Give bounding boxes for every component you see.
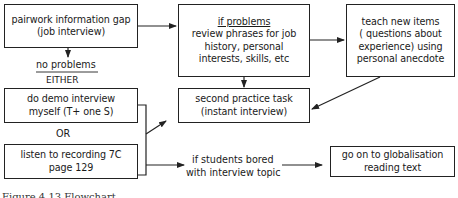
node-text: page 129	[49, 162, 94, 175]
node-text: myself (T+ one S)	[29, 106, 114, 119]
node-text: reading text	[364, 162, 421, 175]
node-text: do demo interview	[27, 93, 115, 106]
node-text: listen to recording 7C	[21, 149, 122, 162]
label-either: EITHER	[46, 74, 79, 86]
label-or: OR	[56, 128, 70, 140]
node-text: history, personal	[205, 41, 284, 54]
node-text: teach new items	[362, 16, 440, 29]
node-globalisation-reading: go on to globalisation reading text	[330, 146, 455, 177]
figure-caption: Figure 4.13 Flowchart	[2, 191, 116, 198]
node-text: ( questions about	[359, 28, 441, 41]
node-heading: if problems	[218, 16, 271, 29]
node-pairwork-information-gap: pairwork information gap (job interview)	[4, 4, 138, 48]
node-text: personal anecdote	[357, 53, 445, 66]
label-no-problems: no problems	[36, 59, 96, 71]
node-text: (job interview)	[37, 26, 105, 39]
node-text: (instant interview)	[201, 106, 287, 119]
label-if-students-bored: if students bored with interview topic	[186, 153, 281, 179]
label-text: if students bored	[186, 153, 281, 166]
node-text: go on to globalisation	[342, 149, 444, 162]
node-text: second practice task	[195, 93, 292, 106]
node-teach-new-items: teach new items ( questions about experi…	[346, 4, 455, 77]
node-text: pairwork information gap	[12, 14, 131, 27]
node-second-practice-task: second practice task (instant interview)	[178, 88, 310, 123]
node-if-problems-review: if problems review phrases for job histo…	[178, 4, 310, 77]
node-demo-interview: do demo interview myself (T+ one S)	[4, 88, 138, 123]
node-text: review phrases for job	[192, 28, 296, 41]
flowchart-diagram: pairwork information gap (job interview)…	[0, 0, 458, 198]
node-text: experience) using	[358, 41, 442, 54]
node-text: interests, skills, etc	[199, 53, 289, 66]
label-text: with interview topic	[186, 166, 281, 179]
node-listen-recording: listen to recording 7C page 129	[4, 144, 138, 179]
